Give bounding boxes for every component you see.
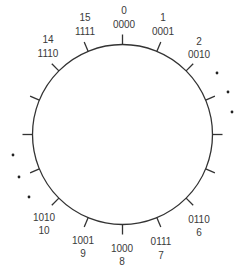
node-decimal: 6 xyxy=(196,227,202,238)
tick-7 xyxy=(157,218,161,227)
node-label-8: 1000 8 xyxy=(111,243,134,267)
ring-ticks xyxy=(23,35,223,235)
node-binary: 0001 xyxy=(152,26,175,37)
node-decimal: 15 xyxy=(79,12,91,23)
node-binary: 1000 xyxy=(111,243,134,254)
tick-3 xyxy=(206,96,215,100)
node-binary: 1010 xyxy=(33,212,56,223)
node-binary: 1110 xyxy=(38,48,59,59)
node-binary: 1111 xyxy=(75,26,95,37)
node-binary: 1001 xyxy=(72,235,95,246)
node-decimal: 9 xyxy=(80,248,86,259)
node-label-15: 15 1111 xyxy=(75,12,95,37)
node-decimal: 10 xyxy=(38,225,50,236)
tick-13 xyxy=(30,96,39,100)
ring-diagram-svg: 0 0000 1 0001 2 0010 15 1111 14 1110 101… xyxy=(0,0,242,276)
tick-11 xyxy=(30,169,39,173)
node-label-1: 1 0001 xyxy=(152,12,175,37)
node-decimal: 2 xyxy=(196,36,202,47)
node-label-0: 0 0000 xyxy=(113,5,136,30)
ellipsis-left-icon xyxy=(12,154,31,199)
node-binary: 0000 xyxy=(113,19,136,30)
node-label-2: 2 0010 xyxy=(188,36,211,60)
node-label-9: 1001 9 xyxy=(72,235,95,259)
node-decimal: 7 xyxy=(158,250,164,261)
identifier-ring xyxy=(33,45,213,225)
node-decimal: 14 xyxy=(42,34,54,45)
tick-5 xyxy=(206,169,215,173)
node-decimal: 1 xyxy=(160,12,166,23)
node-label-6: 0110 6 xyxy=(188,214,210,238)
node-label-7: 0111 7 xyxy=(151,236,172,261)
ellipsis-right-icon xyxy=(216,72,234,114)
ring-diagram: 0 0000 1 0001 2 0010 15 1111 14 1110 101… xyxy=(0,0,242,276)
tick-10 xyxy=(52,198,59,205)
tick-14 xyxy=(52,64,59,71)
tick-2 xyxy=(186,64,193,71)
node-label-14: 14 1110 xyxy=(38,34,59,59)
node-binary: 0110 xyxy=(188,214,210,225)
tick-1 xyxy=(157,42,161,51)
node-decimal: 0 xyxy=(121,5,127,16)
node-decimal: 8 xyxy=(119,256,125,267)
tick-9 xyxy=(84,218,88,227)
node-binary: 0010 xyxy=(188,49,211,60)
tick-15 xyxy=(84,42,88,51)
tick-6 xyxy=(186,198,193,205)
node-label-10: 1010 10 xyxy=(33,212,56,236)
node-binary: 0111 xyxy=(151,236,172,247)
